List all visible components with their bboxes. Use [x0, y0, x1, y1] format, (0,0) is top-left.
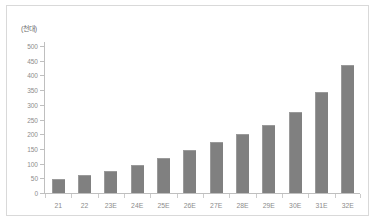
y-tick-label: 0 — [34, 190, 38, 197]
x-tick-mark — [308, 194, 309, 198]
y-tick-label: 250 — [27, 116, 38, 123]
x-tick-label: 27E — [210, 202, 222, 209]
x-tick-mark — [177, 194, 178, 198]
y-tick-mark — [40, 105, 44, 106]
bar — [236, 134, 249, 193]
y-axis-unit-label: (천대) — [21, 23, 37, 33]
y-tick-mark — [40, 193, 44, 194]
x-tick-label: 23E — [105, 202, 117, 209]
bar — [183, 150, 196, 193]
bar — [78, 175, 91, 193]
y-tick-mark — [40, 61, 44, 62]
y-tick-label: 300 — [27, 101, 38, 108]
y-tick-mark — [40, 149, 44, 150]
x-tick-label: 25E — [157, 202, 169, 209]
x-tick-label: 32E — [342, 202, 354, 209]
x-tick-label: 28E — [236, 202, 248, 209]
y-tick-mark — [40, 75, 44, 76]
bar — [131, 165, 144, 193]
x-tick-mark — [229, 194, 230, 198]
x-tick-mark — [71, 194, 72, 198]
x-tick-mark — [45, 194, 46, 198]
x-tick-mark — [150, 194, 151, 198]
y-tick-mark — [40, 46, 44, 47]
bar — [52, 179, 65, 193]
x-tick-mark — [98, 194, 99, 198]
x-tick-label: 24E — [131, 202, 143, 209]
x-tick-mark — [360, 194, 361, 198]
bar — [289, 112, 302, 193]
y-tick-mark — [40, 164, 44, 165]
y-tick-label: 50 — [31, 175, 38, 182]
bar — [157, 158, 170, 193]
x-tick-label: 21 — [54, 202, 62, 209]
y-tick-label: 400 — [27, 72, 38, 79]
x-tick-mark — [203, 194, 204, 198]
x-tick-label: 26E — [184, 202, 196, 209]
bar — [210, 142, 223, 193]
x-tick-mark — [256, 194, 257, 198]
y-tick-mark — [40, 134, 44, 135]
x-tick-label: 30E — [289, 202, 301, 209]
chart-figure: (천대) 050100150200250300350400450500 2122… — [6, 5, 369, 216]
x-tick-label: 29E — [263, 202, 275, 209]
y-tick-label: 350 — [27, 87, 38, 94]
x-tick-mark — [282, 194, 283, 198]
plot-area: 050100150200250300350400450500 212223E24… — [44, 42, 360, 194]
y-tick-label: 450 — [27, 57, 38, 64]
y-tick-mark — [40, 90, 44, 91]
bar — [341, 65, 354, 193]
y-tick-label: 150 — [27, 145, 38, 152]
y-tick-label: 500 — [27, 43, 38, 50]
y-tick-label: 200 — [27, 131, 38, 138]
bar — [315, 92, 328, 193]
x-axis-line — [44, 193, 360, 194]
bar — [262, 125, 275, 194]
x-tick-label: 31E — [315, 202, 327, 209]
y-tick-label: 100 — [27, 160, 38, 167]
x-tick-label: 22 — [81, 202, 89, 209]
y-tick-mark — [40, 120, 44, 121]
x-tick-mark — [124, 194, 125, 198]
x-tick-mark — [335, 194, 336, 198]
bar — [104, 171, 117, 193]
y-axis-line — [44, 42, 45, 194]
y-tick-mark — [40, 178, 44, 179]
